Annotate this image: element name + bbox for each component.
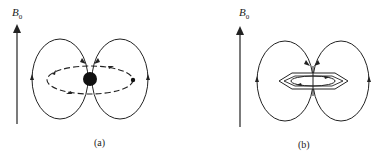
arrowhead-icon — [13, 24, 21, 33]
field-label-a: B0 — [12, 6, 22, 21]
electron — [131, 78, 135, 82]
field-loop-right-a — [92, 39, 148, 119]
field-loop-left-a — [32, 39, 88, 119]
arrowhead-icon — [236, 26, 244, 35]
nucleus — [83, 72, 97, 86]
panel-b — [236, 26, 371, 127]
caption-b: (b) — [298, 139, 310, 150]
diagram-canvas — [0, 0, 382, 160]
caption-a: (a) — [94, 137, 105, 148]
field-label-b: B0 — [239, 6, 249, 21]
panel-a — [13, 24, 150, 124]
